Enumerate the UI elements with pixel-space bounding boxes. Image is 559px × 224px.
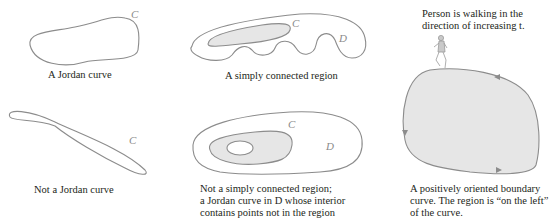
region-label-d: D	[325, 140, 334, 152]
curve-label-c: C	[131, 8, 139, 20]
hole	[227, 141, 253, 155]
walking-person-icon	[434, 35, 447, 68]
caption-walking-person: Person is walking in the direction of in…	[422, 8, 525, 32]
region-label-d: D	[338, 32, 347, 44]
curve-label-c: C	[129, 134, 137, 146]
curve-label-c: C	[288, 118, 296, 130]
caption-not-jordan: Not a Jordan curve	[34, 184, 114, 196]
caption-positively-oriented: A positively oriented boundary curve. Th…	[410, 183, 548, 219]
self-intersecting-curve	[9, 111, 146, 174]
curve-label-c: C	[292, 17, 300, 29]
caption-jordan: A Jordan curve	[48, 69, 112, 81]
jordan-curve	[30, 17, 139, 64]
caption-not-simply-connected: Not a simply connected region; a Jordan …	[200, 183, 345, 219]
caption-simply-connected: A simply connected region	[225, 70, 338, 82]
oriented-region	[403, 69, 539, 174]
